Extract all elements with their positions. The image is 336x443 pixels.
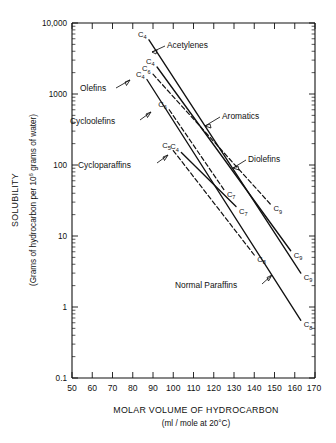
x-tick-label-130: 130 — [227, 383, 242, 393]
y-axis-subtitle-pre: (Grams of hydrocarbon per 10 — [29, 176, 38, 286]
x-tick-label-140: 140 — [247, 383, 262, 393]
x-tick-label-100: 100 — [166, 383, 181, 393]
y-axis-subtitle: (Grams of hydrocarbon per 106 grams of w… — [28, 114, 38, 286]
x-tick-label-160: 160 — [288, 383, 303, 393]
series-label-aromatics: Aromatics — [222, 111, 259, 121]
y-tick-label-10: 10 — [58, 232, 68, 241]
y-tick-label-100: 100 — [53, 161, 67, 170]
y-tick-label-1: 1 — [62, 303, 67, 312]
series-label-acetylenes: Acetylenes — [167, 40, 208, 50]
y-axis-title-group: SOLUBILITY — [10, 173, 20, 227]
chart-svg: 10,000 1000 100 10 1 0.1 50 60 70 80 90 … — [0, 0, 336, 443]
chart-background — [0, 0, 336, 443]
solubility-vs-molar-volume-chart: 10,000 1000 100 10 1 0.1 50 60 70 80 90 … — [0, 0, 336, 443]
series-label-cycloolefins: Cycloolefins — [70, 116, 115, 126]
x-tick-label-80: 80 — [128, 383, 138, 393]
x-tick-label-110: 110 — [187, 383, 201, 393]
x-tick-label-120: 120 — [207, 383, 222, 393]
y-tick-label-10000: 10,000 — [42, 19, 67, 28]
y-axis-title: SOLUBILITY — [10, 173, 20, 227]
y-tick-label-0.1: 0.1 — [56, 374, 68, 383]
x-tick-label-60: 60 — [87, 383, 97, 393]
x-tick-label-90: 90 — [148, 383, 158, 393]
series-label-diolefins: Diolefins — [248, 154, 280, 164]
x-tick-label-50: 50 — [67, 383, 77, 393]
y-axis-subtitle-group: (Grams of hydrocarbon per 106 grams of w… — [28, 114, 38, 286]
y-axis-subtitle-post: grams of water) — [29, 114, 38, 173]
x-axis-subtitle: (ml / mole at 20°C) — [162, 419, 231, 428]
series-label-cycloparaffins: Cycloparaffins — [78, 160, 131, 170]
x-tick-label-170: 170 — [307, 383, 322, 393]
x-tick-label-70: 70 — [108, 383, 118, 393]
series-label-olefins: Olefins — [80, 83, 106, 93]
series-label-normal-paraffins: Normal Paraffins — [175, 280, 237, 290]
y-tick-label-1000: 1000 — [49, 90, 68, 99]
x-axis-title: MOLAR VOLUME OF HYDROCARBON — [113, 405, 279, 415]
x-tick-label-150: 150 — [267, 383, 282, 393]
